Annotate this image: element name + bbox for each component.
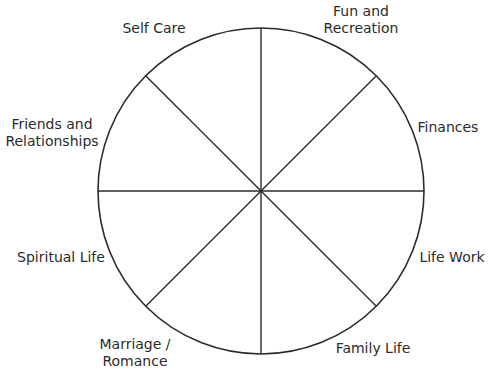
label-fun-recreation: Fun and Recreation: [320, 3, 402, 37]
label-marriage-romance-line2: Romance: [95, 353, 175, 370]
label-friends-relationships-line2: Relationships: [2, 133, 102, 150]
label-friends-relationships-line1: Friends and: [2, 116, 102, 133]
label-finances-line1: Finances: [414, 119, 482, 136]
label-marriage-romance: Marriage / Romance: [95, 336, 175, 370]
label-life-work-line1: Life Work: [416, 249, 488, 266]
label-finances: Finances: [414, 119, 482, 136]
life-wheel: [0, 0, 492, 376]
label-fun-recreation-line1: Fun and: [320, 3, 402, 20]
label-self-care-line1: Self Care: [118, 20, 190, 37]
label-self-care: Self Care: [118, 20, 190, 37]
label-spiritual-life: Spiritual Life: [12, 249, 110, 266]
label-fun-recreation-line2: Recreation: [320, 20, 402, 37]
label-spiritual-life-line1: Spiritual Life: [12, 249, 110, 266]
label-family-life: Family Life: [330, 340, 416, 357]
label-family-life-line1: Family Life: [330, 340, 416, 357]
label-life-work: Life Work: [416, 249, 488, 266]
label-friends-relationships: Friends and Relationships: [2, 116, 102, 150]
label-marriage-romance-line1: Marriage /: [95, 336, 175, 353]
